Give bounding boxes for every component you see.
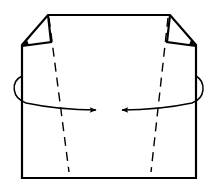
origami-diagram — [0, 0, 216, 193]
paper-body — [22, 15, 196, 178]
paper-outline — [22, 15, 196, 178]
